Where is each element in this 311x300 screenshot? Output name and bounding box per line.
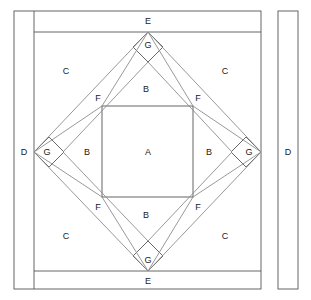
lbl-e-bottom: E	[145, 277, 151, 286]
lbl-c-botleft: C	[63, 232, 70, 241]
lbl-f-botleft: F	[95, 203, 101, 212]
lbl-d-left: D	[21, 148, 28, 157]
lbl-c-botright: C	[222, 232, 229, 241]
lbl-c-topright: C	[222, 67, 229, 76]
lbl-b-right: B	[206, 148, 212, 157]
lbl-f-topright: F	[195, 94, 201, 103]
lbl-e-top: E	[145, 17, 151, 26]
lbl-f-topleft: F	[95, 94, 101, 103]
b-band-spoke-6	[34, 152, 102, 197]
lbl-g-right: G	[245, 148, 252, 157]
lbl-g-left: G	[43, 148, 50, 157]
outer-frame-rect	[14, 11, 261, 289]
lbl-g-top: G	[144, 41, 151, 50]
lbl-a-center: A	[145, 148, 151, 157]
lbl-d-strip: D	[285, 148, 292, 157]
b-band-spoke-2	[193, 106, 261, 152]
b-band-spoke-7	[34, 106, 102, 152]
lbl-b-top: B	[143, 85, 149, 94]
lbl-f-botright: F	[195, 203, 201, 212]
quilt-block-diagram: EGCCFBFDGBABGFBFCCGED	[0, 0, 311, 300]
lbl-g-bottom: G	[144, 256, 151, 265]
lbl-b-bottom: B	[143, 211, 149, 220]
b-band-spoke-3	[193, 152, 261, 197]
lbl-b-left: B	[84, 148, 90, 157]
lbl-c-topleft: C	[63, 67, 70, 76]
